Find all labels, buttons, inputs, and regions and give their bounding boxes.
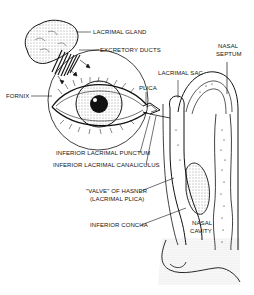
pupil-shape [90,95,108,113]
label-inferior-concha: INFERIOR CONCHA [90,222,148,229]
label-plica: PLICA [139,85,157,92]
label-nasal-septum-line1: NASAL [218,43,238,50]
lacrimal-apparatus-diagram: LACRIMAL GLAND EXCRETORY DUCTS NASAL SEP… [0,0,254,295]
label-inferior-lacrimal-canaliculus: INFERIOR LACRIMAL CANALICULUS [53,162,160,169]
label-inferior-lacrimal-punctum: INFERIOR LACRIMAL PUNCTUM [56,150,150,157]
label-lacrimal-sac: LACRIMAL SAC [158,70,203,77]
label-valve-of-hasner-line1: "VALVE" OF HASNER [86,188,147,195]
anatomy-illustration [0,0,254,295]
label-fornix: FORNIX [6,93,29,100]
label-lacrimal-gland: LACRIMAL GLAND [93,29,147,36]
inferior-concha-shape [186,163,209,214]
label-nasal-cavity-line1: NASAL [192,220,212,227]
label-valve-of-hasner-line2: (LACRIMAL PLICA) [90,196,144,203]
label-nasal-septum-line2: SEPTUM [216,51,242,58]
label-nasal-cavity-line2: CAVITY [190,228,212,235]
label-excretory-ducts: EXCRETORY DUCTS [100,47,161,54]
